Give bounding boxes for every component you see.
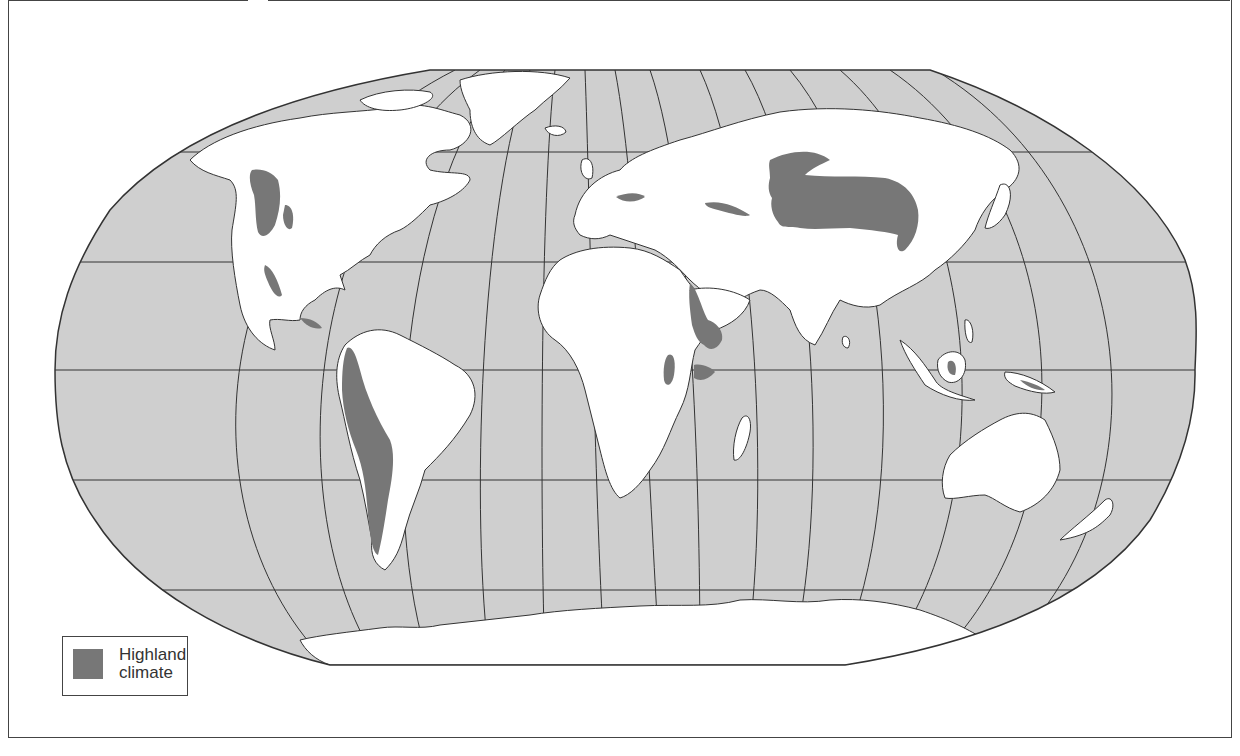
legend-label-line1: Highland xyxy=(119,646,186,664)
highland-climate-swatch xyxy=(73,649,103,679)
legend-label-line2: climate xyxy=(119,664,186,682)
map-legend: Highland climate xyxy=(62,636,188,696)
legend-label: Highland climate xyxy=(119,646,186,682)
